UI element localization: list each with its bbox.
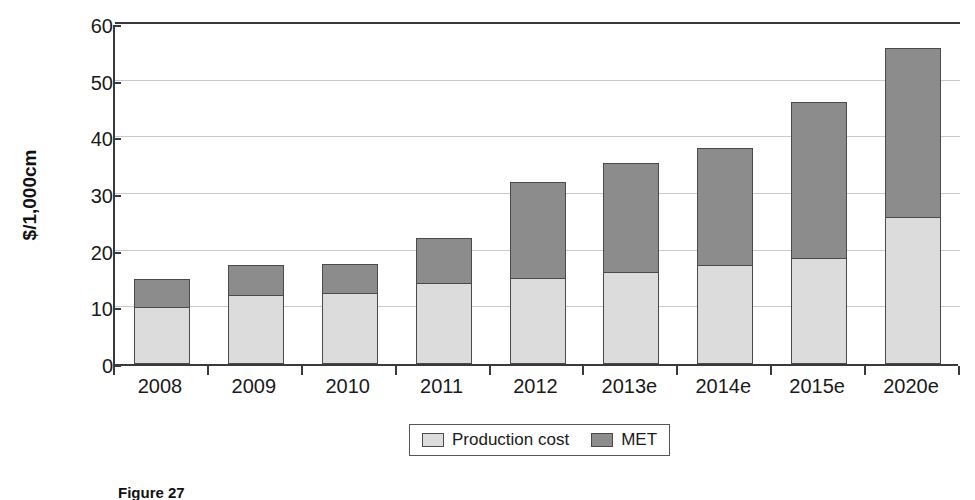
bar-segment-met-2008[interactable] (134, 279, 190, 308)
y-axis-ticks: 0102030405060 (55, 26, 113, 366)
legend-label-met: MET (621, 430, 657, 450)
x-tick-mark-7 (770, 366, 772, 375)
x-tick-mark-8 (864, 366, 866, 375)
y-tick-label-60: 60 (69, 15, 113, 38)
bar-segment-production-cost-2020e[interactable] (885, 217, 941, 364)
y-tick-label-40: 40 (69, 128, 113, 151)
y-axis-title: $/1,000cm (0, 20, 60, 370)
x-tick-mark-6 (676, 366, 678, 375)
bar-group-2014e[interactable] (697, 148, 753, 364)
bar-group-2015e[interactable] (791, 102, 847, 364)
bar-segment-production-cost-2014e[interactable] (697, 264, 753, 364)
bar-segment-production-cost-2010[interactable] (322, 293, 378, 364)
x-tick-label-2015e: 2015e (789, 375, 845, 398)
bar-group-2010[interactable] (322, 264, 378, 364)
bar-segment-met-2020e[interactable] (885, 48, 941, 218)
bar-segment-met-2011[interactable] (416, 238, 472, 284)
bar-segment-production-cost-2015e[interactable] (791, 257, 847, 364)
bar-segment-met-2010[interactable] (322, 264, 378, 294)
bar-segment-met-2012[interactable] (510, 182, 566, 279)
figure-caption: Figure 27 (118, 484, 185, 500)
gridline-60 (115, 22, 960, 24)
x-tick-label-2013e: 2013e (602, 375, 658, 398)
bar-segment-met-2009[interactable] (228, 265, 284, 295)
legend-swatch-production-cost (422, 433, 444, 447)
plot-area (113, 26, 958, 366)
x-tick-mark-5 (582, 366, 584, 375)
bar-group-2009[interactable] (228, 265, 284, 364)
x-tick-label-2009: 2009 (232, 375, 277, 398)
y-tick-label-30: 30 (69, 185, 113, 208)
x-tick-mark-3 (395, 366, 397, 375)
x-tick-mark-2 (301, 366, 303, 375)
x-tick-mark-4 (489, 366, 491, 375)
x-tick-mark-9 (958, 366, 960, 375)
bar-segment-production-cost-2008[interactable] (134, 306, 190, 364)
x-tick-label-2010: 2010 (325, 375, 370, 398)
x-tick-label-2012: 2012 (513, 375, 558, 398)
legend-swatch-met (591, 433, 613, 447)
bar-segment-production-cost-2009[interactable] (228, 294, 284, 364)
y-axis-title-text: $/1,000cm (19, 150, 41, 241)
y-tick-label-20: 20 (69, 241, 113, 264)
x-tick-mark-1 (207, 366, 209, 375)
chart-legend: Production costMET (409, 424, 670, 456)
bar-segment-production-cost-2011[interactable] (416, 283, 472, 364)
bar-group-2011[interactable] (416, 238, 472, 364)
legend-entry-production-cost[interactable]: Production cost (422, 430, 569, 450)
x-tick-label-2011: 2011 (420, 375, 463, 398)
legend-entry-met[interactable]: MET (591, 430, 657, 450)
figure-container: $/1,000cm 0102030405060 2008200920102011… (0, 0, 975, 500)
x-tick-label-2014e: 2014e (695, 375, 751, 398)
plot-wrapper (113, 26, 958, 366)
x-tick-mark-0 (113, 366, 115, 375)
legend-label-production-cost: Production cost (452, 430, 569, 450)
y-tick-label-0: 0 (69, 355, 113, 378)
bar-segment-met-2015e[interactable] (791, 102, 847, 259)
x-tick-label-2008: 2008 (138, 375, 183, 398)
bar-group-2008[interactable] (134, 279, 190, 364)
bar-segment-met-2014e[interactable] (697, 148, 753, 266)
x-axis-labels: 200820092010201120122013e2014e2015e2020e (113, 375, 958, 403)
bar-group-2012[interactable] (510, 182, 566, 364)
gridline-50 (115, 80, 960, 81)
x-tick-label-2020e: 2020e (883, 375, 939, 398)
bar-group-2013e[interactable] (603, 163, 659, 364)
bar-group-2020e[interactable] (885, 48, 941, 364)
y-tick-label-50: 50 (69, 71, 113, 94)
y-tick-label-10: 10 (69, 298, 113, 321)
bar-segment-production-cost-2012[interactable] (510, 277, 566, 364)
bar-segment-met-2013e[interactable] (603, 163, 659, 273)
bar-segment-production-cost-2013e[interactable] (603, 271, 659, 364)
